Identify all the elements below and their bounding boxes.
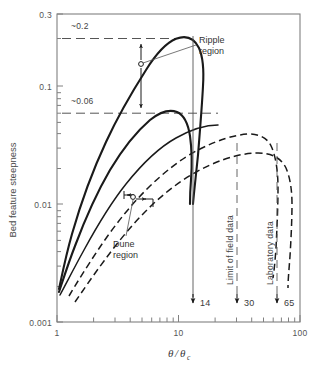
y-tick-label-0: 0.3 bbox=[39, 10, 52, 20]
curve-dune-upper-dashed bbox=[69, 134, 278, 296]
vline-65-value: 65 bbox=[284, 298, 295, 308]
ripple-region-label-line2: region bbox=[199, 46, 224, 56]
vline-65-label: Laboratory data bbox=[265, 221, 275, 285]
x-axis-title-slash: / bbox=[174, 347, 179, 359]
ripple-region-annotation: Ripple region bbox=[139, 35, 225, 108]
plot-border bbox=[57, 14, 300, 322]
ripple-region-label-line1: Ripple bbox=[199, 35, 225, 45]
plot-frame bbox=[57, 14, 300, 322]
dune-leader-line bbox=[126, 200, 133, 236]
dune-region-annotation: Dune region bbox=[113, 191, 153, 260]
y-tick-label-2: 0.01 bbox=[34, 200, 52, 210]
x-tick-label-2: 100 bbox=[292, 328, 307, 338]
bed-feature-steepness-chart: 0.3 0.1 0.01 0.001 1 10 100 Bed feature … bbox=[0, 0, 324, 366]
dune-anchor-marker bbox=[131, 195, 136, 200]
chart-canvas: 0.3 0.1 0.01 0.001 1 10 100 Bed feature … bbox=[0, 0, 324, 366]
y-axis-title: Bed feature steepness bbox=[7, 142, 18, 237]
x-tick-label-1: 10 bbox=[173, 328, 183, 338]
x-axis-title-subscript: c bbox=[187, 353, 191, 362]
ripple-leader-line bbox=[143, 45, 196, 63]
x-axis-title-theta: θ bbox=[168, 347, 174, 359]
data-curves bbox=[59, 37, 292, 302]
y-tick-label-1: 0.1 bbox=[39, 82, 52, 92]
x-tick-label-0: 1 bbox=[54, 328, 59, 338]
vertical-markers: 14 30 Limit of field data 65 Laboratory … bbox=[193, 36, 295, 308]
curve-dune-mid-solid bbox=[60, 125, 218, 295]
vline-14-value: 14 bbox=[200, 298, 211, 308]
vline-30-label: Limit of field data bbox=[225, 215, 235, 285]
dune-region-label-line2: region bbox=[113, 250, 138, 260]
level-label-low: ~0.06 bbox=[71, 96, 94, 106]
level-label-high: ~0.2 bbox=[71, 21, 89, 31]
vline-30-value: 30 bbox=[244, 298, 255, 308]
dune-region-label-line1: Dune bbox=[113, 239, 135, 249]
x-axis-ticks bbox=[57, 315, 300, 322]
ripple-anchor-marker bbox=[139, 62, 144, 67]
x-axis-title: θ / θ c bbox=[168, 347, 191, 362]
curve-dune-upper-solid bbox=[59, 111, 192, 292]
y-tick-label-3: 0.001 bbox=[29, 318, 52, 328]
x-axis-title-theta-c: θ bbox=[180, 347, 186, 359]
